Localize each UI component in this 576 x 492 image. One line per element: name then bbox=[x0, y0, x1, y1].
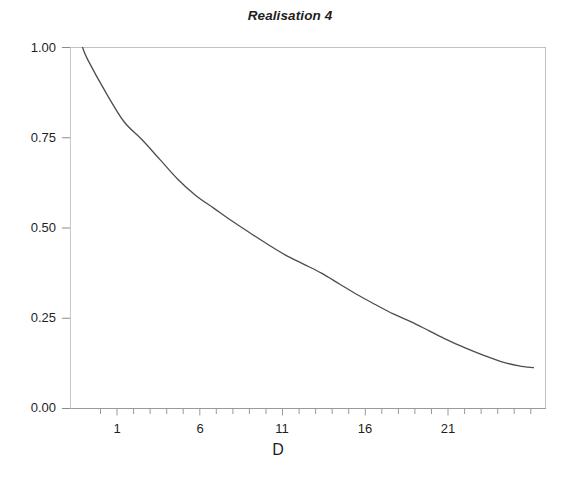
y-tick-label-4: 0.25 bbox=[8, 310, 56, 325]
y-tick-label-1: 1.00 bbox=[8, 40, 56, 55]
y-tick-label-5: 0.00 bbox=[8, 400, 56, 415]
x-tick-label-1: 1 bbox=[97, 421, 137, 436]
y-tick-label-3: 0.50 bbox=[8, 220, 56, 235]
data-series-line bbox=[83, 48, 534, 368]
y-tick-label-2: 0.75 bbox=[8, 130, 56, 145]
x-tick-label-3: 11 bbox=[262, 421, 302, 436]
x-axis-title: D bbox=[0, 441, 566, 459]
x-tick-label-4: 16 bbox=[345, 421, 385, 436]
x-axis-ticks bbox=[101, 409, 531, 416]
plot-area bbox=[0, 0, 576, 492]
chart-figure: Realisation 4 bbox=[0, 0, 576, 492]
plot-frame bbox=[70, 48, 546, 409]
x-tick-label-5: 21 bbox=[428, 421, 468, 436]
y-axis-ticks bbox=[62, 48, 71, 409]
x-tick-label-2: 6 bbox=[180, 421, 220, 436]
